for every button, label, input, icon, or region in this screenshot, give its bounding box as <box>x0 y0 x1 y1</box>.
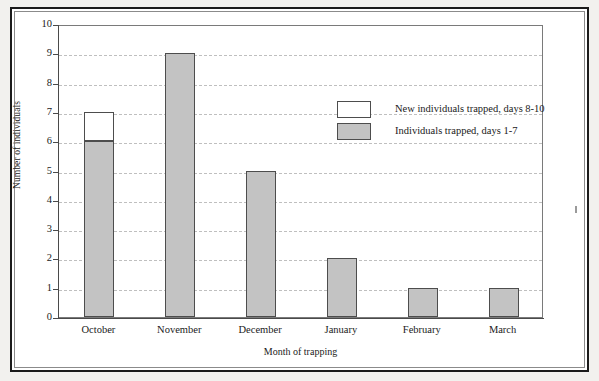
chart-legend: New individuals trapped, days 8-10 Indiv… <box>337 100 547 144</box>
y-axis-tick-mark <box>53 230 58 231</box>
legend-swatch-gray <box>337 123 371 140</box>
legend-item-individuals: Individuals trapped, days 1-7 <box>337 122 547 142</box>
gridline <box>59 85 542 86</box>
y-axis-tick-labels: 012345678910 <box>26 0 52 381</box>
scan-artifact-mark <box>575 206 577 213</box>
x-axis-tick-label: December <box>215 324 305 335</box>
plot-area <box>58 25 543 318</box>
bar-segment-days-1-7[interactable] <box>489 288 519 317</box>
bar-segment-days-1-7[interactable] <box>84 141 114 317</box>
y-axis-tick-mark <box>53 289 58 290</box>
bar-segment-days-8-10[interactable] <box>84 112 114 141</box>
x-axis-line <box>58 318 544 319</box>
x-axis-tick-label: January <box>296 324 386 335</box>
gridline <box>59 231 542 232</box>
legend-label-individuals: Individuals trapped, days 1-7 <box>395 125 517 136</box>
gridline <box>59 173 542 174</box>
y-axis-tick-label: 10 <box>30 19 52 30</box>
x-axis-tick-label: November <box>134 324 224 335</box>
y-axis-tick-label: 8 <box>30 78 52 89</box>
gridline <box>59 260 542 261</box>
y-axis-line <box>58 25 59 319</box>
y-axis-tick-mark <box>53 113 58 114</box>
y-axis-tick-mark <box>53 172 58 173</box>
bar-group[interactable] <box>165 24 195 317</box>
bar-segment-days-1-7[interactable] <box>246 171 276 318</box>
bar-group[interactable] <box>489 24 519 317</box>
x-axis-tick-label: October <box>53 324 143 335</box>
y-axis-tick-mark <box>53 84 58 85</box>
y-axis-tick-label: 2 <box>30 253 52 264</box>
y-axis-tick-label: 3 <box>30 224 52 235</box>
y-axis-tick-label: 6 <box>30 136 52 147</box>
y-axis-tick-mark <box>53 25 58 26</box>
x-axis-tick-label: February <box>377 324 467 335</box>
gridline <box>59 290 542 291</box>
bar-segment-days-1-7[interactable] <box>327 258 357 317</box>
y-axis-tick-label: 1 <box>30 283 52 294</box>
y-axis-tick-label: 5 <box>30 166 52 177</box>
bar-segment-days-1-7[interactable] <box>165 53 195 317</box>
legend-label-new-individuals: New individuals trapped, days 8-10 <box>395 103 545 114</box>
legend-item-new-individuals: New individuals trapped, days 8-10 <box>337 100 547 120</box>
y-axis-tick-mark <box>53 142 58 143</box>
y-axis-tick-mark <box>53 259 58 260</box>
y-axis-title: Number of individuals <box>12 65 22 225</box>
x-axis-tick-label: March <box>458 324 548 335</box>
y-axis-tick-label: 9 <box>30 48 52 59</box>
bar-segment-days-1-7[interactable] <box>408 288 438 317</box>
y-axis-tick-label: 7 <box>30 107 52 118</box>
gridline <box>59 55 542 56</box>
bar-group[interactable] <box>327 24 357 317</box>
bar-group[interactable] <box>84 24 114 317</box>
y-axis-tick-mark <box>53 201 58 202</box>
gridline <box>59 202 542 203</box>
y-axis-tick-mark <box>53 318 58 319</box>
x-axis-title: Month of trapping <box>58 346 543 357</box>
legend-swatch-white <box>337 101 371 118</box>
y-axis-tick-mark <box>53 54 58 55</box>
bar-chart: 012345678910 Number of individuals Month… <box>0 0 599 381</box>
bar-group[interactable] <box>246 24 276 317</box>
y-axis-tick-label: 0 <box>30 312 52 323</box>
y-axis-tick-label: 4 <box>30 195 52 206</box>
bar-group[interactable] <box>408 24 438 317</box>
